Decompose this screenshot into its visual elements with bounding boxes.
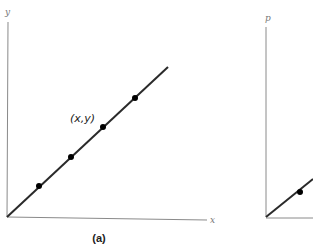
data-point (36, 183, 42, 189)
data-point (297, 189, 303, 195)
x-axis-label: x (210, 215, 215, 225)
diagonal-line-b (266, 179, 313, 217)
data-point (68, 154, 74, 160)
y-axis (7, 22, 8, 217)
panel-a: y x (x,y) (a) (4, 7, 215, 244)
panel-b: p (265, 13, 313, 218)
y-axis-label: y (4, 7, 11, 17)
data-point (132, 95, 138, 101)
diagonal-line (7, 67, 168, 217)
figure: y x (x,y) (a) p (0, 0, 313, 247)
point-label: (x,y) (70, 112, 95, 125)
data-point (100, 124, 106, 130)
x-axis (7, 217, 207, 220)
p-axis-label: p (265, 13, 271, 23)
caption-a: (a) (92, 232, 106, 244)
